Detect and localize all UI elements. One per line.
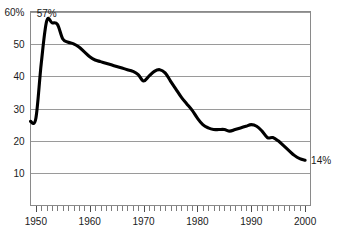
y-tick-label-30: 30 — [13, 104, 25, 115]
y-axis-tick-labels: 60%5040302010 — [4, 7, 24, 179]
gridlines-group — [31, 13, 311, 174]
y-tick-label-60: 60% — [4, 7, 24, 18]
y-tick-label-40: 40 — [13, 71, 25, 82]
x-axis-tick-labels: 195019601970198019902000 — [25, 216, 317, 227]
x-tick-label-1970: 1970 — [132, 216, 155, 227]
peak-value-label: 57% — [37, 8, 57, 19]
annotations-group: 57%14% — [37, 8, 332, 166]
series-line-value — [31, 18, 306, 160]
line-chart: 60%5040302010 195019601970198019902000 5… — [0, 0, 339, 239]
end-value-label: 14% — [311, 155, 331, 166]
x-tick-label-1980: 1980 — [186, 216, 209, 227]
y-tick-label-10: 10 — [13, 168, 25, 179]
x-tick-label-1960: 1960 — [79, 216, 102, 227]
x-tick-label-1990: 1990 — [240, 216, 263, 227]
y-tick-label-50: 50 — [13, 39, 25, 50]
x-minor-ticks-group — [37, 206, 306, 211]
plot-border — [31, 12, 311, 206]
x-tick-label-2000: 2000 — [294, 216, 317, 227]
data-series-group — [31, 18, 306, 160]
y-tick-label-20: 20 — [13, 136, 25, 147]
x-tick-label-1950: 1950 — [25, 216, 48, 227]
chart-canvas: 60%5040302010 195019601970198019902000 5… — [0, 0, 339, 239]
